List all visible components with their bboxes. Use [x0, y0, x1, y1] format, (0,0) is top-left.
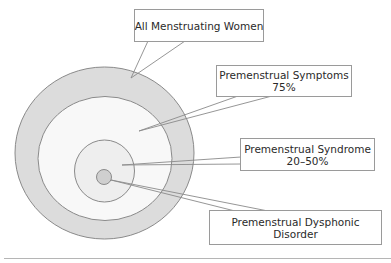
circle-premenstrual-dysphonic-disorder: [97, 170, 112, 185]
label-text: All Menstruating Women: [135, 20, 264, 32]
label-premenstrual-dysphonic-disorder: Premenstrual Dysphonic Disorder: [209, 210, 382, 245]
label-percentage: 75%: [272, 81, 295, 93]
bottom-rule-divider: [4, 258, 391, 259]
label-text: Premenstrual Syndrome: [244, 143, 371, 155]
label-text: Premenstrual Symptoms: [219, 69, 348, 81]
label-premenstrual-symptoms: Premenstrual Symptoms 75%: [216, 65, 352, 97]
label-text: Premenstrual Dysphonic: [231, 216, 359, 228]
label-text-line2: Disorder: [273, 228, 317, 240]
label-percentage: 20–50%: [287, 155, 329, 167]
label-all-menstruating-women: All Menstruating Women: [134, 9, 264, 42]
pointer-all-menstruating-women: [131, 41, 185, 78]
label-premenstrual-syndrome: Premenstrual Syndrome 20–50%: [240, 138, 375, 171]
